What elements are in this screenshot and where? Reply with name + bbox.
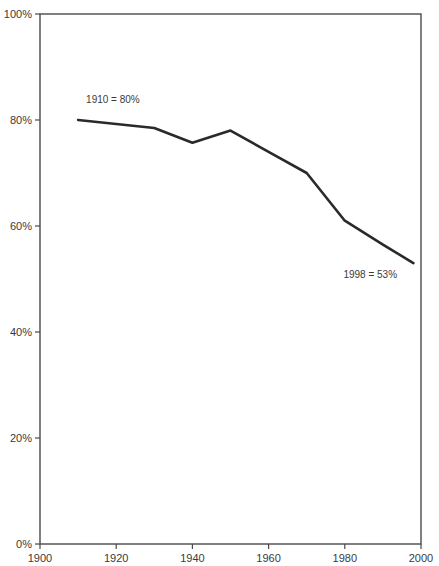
y-tick-label: 20% bbox=[10, 432, 32, 444]
chart-canvas: 190019201940196019802000 0%20%40%60%80%1… bbox=[0, 0, 439, 566]
data-annotation: 1998 = 53% bbox=[343, 269, 397, 280]
y-tick-label: 100% bbox=[4, 8, 32, 20]
y-tick-label: 80% bbox=[10, 114, 32, 126]
x-tick-label: 2000 bbox=[409, 552, 433, 564]
x-tick-label: 1940 bbox=[180, 552, 204, 564]
y-tick-label: 0% bbox=[16, 538, 32, 550]
chart-background bbox=[0, 0, 439, 566]
x-tick-label: 1900 bbox=[28, 552, 52, 564]
x-tick-label: 1980 bbox=[333, 552, 357, 564]
x-tick-label: 1960 bbox=[256, 552, 280, 564]
y-tick-label: 60% bbox=[10, 220, 32, 232]
x-tick-label: 1920 bbox=[104, 552, 128, 564]
y-tick-label: 40% bbox=[10, 326, 32, 338]
line-chart: 190019201940196019802000 0%20%40%60%80%1… bbox=[0, 0, 439, 566]
data-annotation: 1910 = 80% bbox=[86, 94, 140, 105]
